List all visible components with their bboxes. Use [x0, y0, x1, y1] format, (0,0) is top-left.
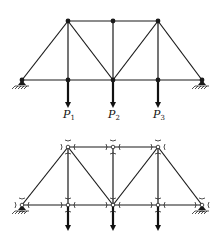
joint-E: [200, 78, 205, 83]
member-AF: [22, 21, 68, 80]
joint-B: [66, 203, 70, 207]
joint-F: [66, 19, 71, 24]
joint-F: [66, 145, 70, 149]
member-force-arrow-icon: [65, 140, 71, 141]
member-force-arrow-icon: [164, 144, 165, 150]
truss-figure: P1P2P3: [0, 0, 224, 232]
member-FC: [68, 21, 113, 80]
joint-B: [66, 78, 71, 83]
member-force-arrow-icon: [19, 198, 25, 199]
member-HE: [158, 147, 202, 205]
member-force-arrow-icon: [199, 198, 205, 199]
member-force-arrow-icon: [155, 140, 161, 141]
joint-E: [200, 203, 204, 207]
member-HC: [113, 147, 158, 205]
joint-H: [156, 145, 160, 149]
member-force-arrow-icon: [61, 144, 62, 150]
joint-D: [156, 78, 161, 83]
member-force-arrow-icon: [208, 202, 209, 208]
load-label-P2: P2: [107, 108, 120, 122]
load-label-P1: P1: [62, 108, 75, 122]
joint-H: [156, 19, 161, 24]
member-FC: [68, 147, 113, 205]
joint-G: [111, 19, 116, 24]
joint-A: [20, 78, 25, 83]
member-HE: [158, 21, 202, 80]
member-force-arrow-icon: [199, 211, 205, 212]
loaded-truss-diagram: P1P2P3: [12, 19, 209, 122]
arrowhead-icon: [65, 225, 71, 231]
member-force-arrow-icon: [110, 140, 116, 141]
arrowhead-icon: [155, 225, 161, 231]
joint-force-diagram: [12, 140, 209, 231]
member-force-arrow-icon: [19, 211, 25, 212]
joint-A: [20, 203, 24, 207]
member-AF: [22, 147, 68, 205]
joint-C: [111, 78, 116, 83]
joint-C: [111, 203, 115, 207]
joint-D: [156, 203, 160, 207]
load-label-P3: P3: [152, 108, 165, 122]
joint-G: [111, 145, 115, 149]
member-force-arrow-icon: [15, 202, 16, 208]
arrowhead-icon: [110, 225, 116, 231]
member-HC: [113, 21, 158, 80]
